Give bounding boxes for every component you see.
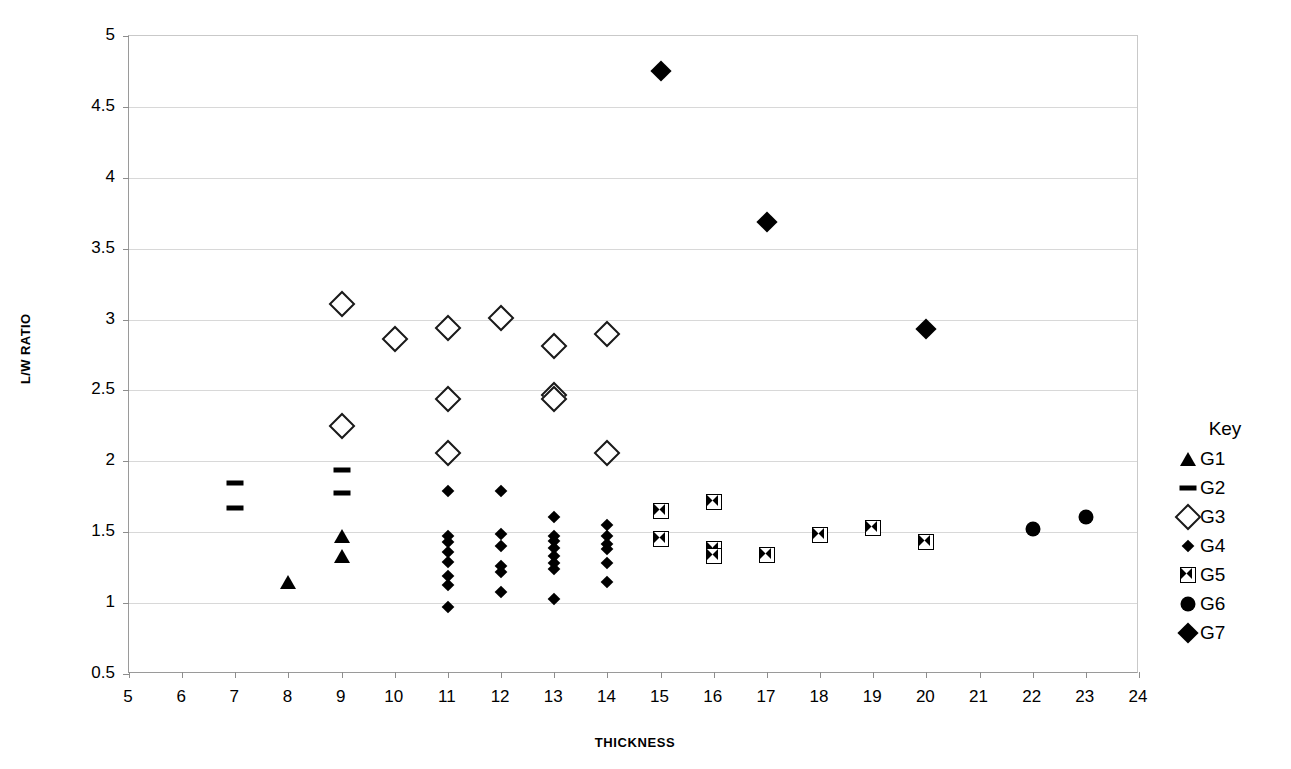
marker-large-filled-diamond-icon [916, 319, 937, 340]
x-axis-tick-label: 16 [703, 687, 722, 707]
x-axis-tick-label: 8 [283, 687, 292, 707]
x-axis-tick [554, 672, 555, 678]
legend: Key G1G2G3G4G5G6G7 [1162, 418, 1282, 647]
legend-item-g1[interactable]: G1 [1162, 444, 1282, 473]
x-axis-tick [448, 672, 449, 678]
x-axis-tick [873, 672, 874, 678]
legend-swatch-g7 [1176, 622, 1200, 644]
y-axis-tick-label: 2 [5, 450, 115, 470]
x-axis-tick [661, 672, 662, 678]
y-axis-tick-label: 0.5 [5, 663, 115, 683]
legend-label: G1 [1200, 449, 1225, 468]
x-axis-tick-label: 5 [123, 687, 132, 707]
y-axis-tick-label: 5 [5, 25, 115, 45]
legend-label: G5 [1200, 565, 1225, 584]
x-axis-tick [288, 672, 289, 678]
x-axis-tick [395, 672, 396, 678]
x-axis-tick-label: 12 [491, 687, 510, 707]
x-axis-tick-label: 14 [597, 687, 616, 707]
y-axis-tick-label: 4.5 [5, 96, 115, 116]
legend-title: Key [1162, 418, 1282, 440]
x-axis-tick-label: 11 [438, 687, 456, 707]
x-axis-tick [342, 672, 343, 678]
x-axis-tick-label: 24 [1129, 687, 1148, 707]
legend-swatch-g6 [1176, 593, 1200, 615]
x-axis-tick-label: 10 [384, 687, 403, 707]
marker-open-diamond-icon [1175, 503, 1202, 530]
legend-item-g2[interactable]: G2 [1162, 473, 1282, 502]
marker-large-filled-diamond-icon [756, 211, 777, 232]
x-axis-tick [1139, 672, 1140, 678]
x-axis-tick-label: 9 [336, 687, 345, 707]
marker-small-filled-diamond-icon [1182, 539, 1195, 552]
x-axis-title: THICKNESS [0, 735, 1270, 750]
legend-swatch-g1 [1176, 448, 1200, 470]
legend-swatch-g2 [1176, 477, 1200, 499]
marker-filled-circle-icon [1181, 596, 1196, 611]
series-g7 [129, 36, 1137, 672]
legend-entries: G1G2G3G4G5G6G7 [1162, 444, 1282, 647]
legend-label: G7 [1200, 623, 1225, 642]
x-axis-tick-label: 20 [916, 687, 935, 707]
legend-label: G2 [1200, 478, 1225, 497]
legend-item-g7[interactable]: G7 [1162, 618, 1282, 647]
legend-item-g4[interactable]: G4 [1162, 531, 1282, 560]
y-axis-tick-label: 3.5 [5, 238, 115, 258]
x-axis-tick-label: 19 [863, 687, 882, 707]
x-axis-tick-label: 13 [544, 687, 563, 707]
x-axis-tick-label: 15 [650, 687, 669, 707]
x-axis-tick-label: 22 [1022, 687, 1041, 707]
x-axis-tick [129, 672, 130, 678]
y-axis-tick-label: 4 [5, 167, 115, 187]
y-axis-tick-label: 1.5 [5, 521, 115, 541]
x-axis-tick [820, 672, 821, 678]
plot-area [128, 35, 1138, 673]
legend-swatch-g4 [1176, 535, 1200, 557]
legend-label: G6 [1200, 594, 1225, 613]
marker-large-filled-diamond-icon [650, 61, 671, 82]
legend-item-g3[interactable]: G3 [1162, 502, 1282, 531]
legend-item-g5[interactable]: G5 [1162, 560, 1282, 589]
x-axis-tick-label: 23 [1075, 687, 1094, 707]
x-axis-tick [235, 672, 236, 678]
marker-dash-icon [1180, 485, 1197, 490]
marker-large-filled-diamond-icon [1177, 622, 1198, 643]
x-axis-tick [926, 672, 927, 678]
x-axis-tick [980, 672, 981, 678]
y-axis-tick-label: 2.5 [5, 379, 115, 399]
y-axis-tick-label: 1 [5, 592, 115, 612]
x-axis-tick [1086, 672, 1087, 678]
legend-swatch-g5 [1176, 564, 1200, 586]
legend-label: G3 [1200, 507, 1225, 526]
x-axis-tick [607, 672, 608, 678]
x-axis-tick-label: 7 [230, 687, 239, 707]
x-axis-tick [714, 672, 715, 678]
marker-filled-triangle-icon [1180, 452, 1196, 466]
x-axis-tick [1033, 672, 1034, 678]
y-axis-tick-label: 3 [5, 309, 115, 329]
legend-label: G4 [1200, 536, 1225, 555]
x-axis-tick [501, 672, 502, 678]
chart-root: L/W RATIO 0.511.522.533.544.55 567891011… [0, 0, 1291, 769]
x-axis-tick-label: 21 [969, 687, 988, 707]
x-axis-tick-label: 6 [176, 687, 185, 707]
x-axis-tick-label: 17 [756, 687, 775, 707]
x-axis-tick [182, 672, 183, 678]
legend-item-g6[interactable]: G6 [1162, 589, 1282, 618]
marker-bowtie-icon [1180, 567, 1196, 583]
x-axis-tick-label: 18 [810, 687, 829, 707]
legend-swatch-g3 [1176, 506, 1200, 528]
x-axis-tick [767, 672, 768, 678]
